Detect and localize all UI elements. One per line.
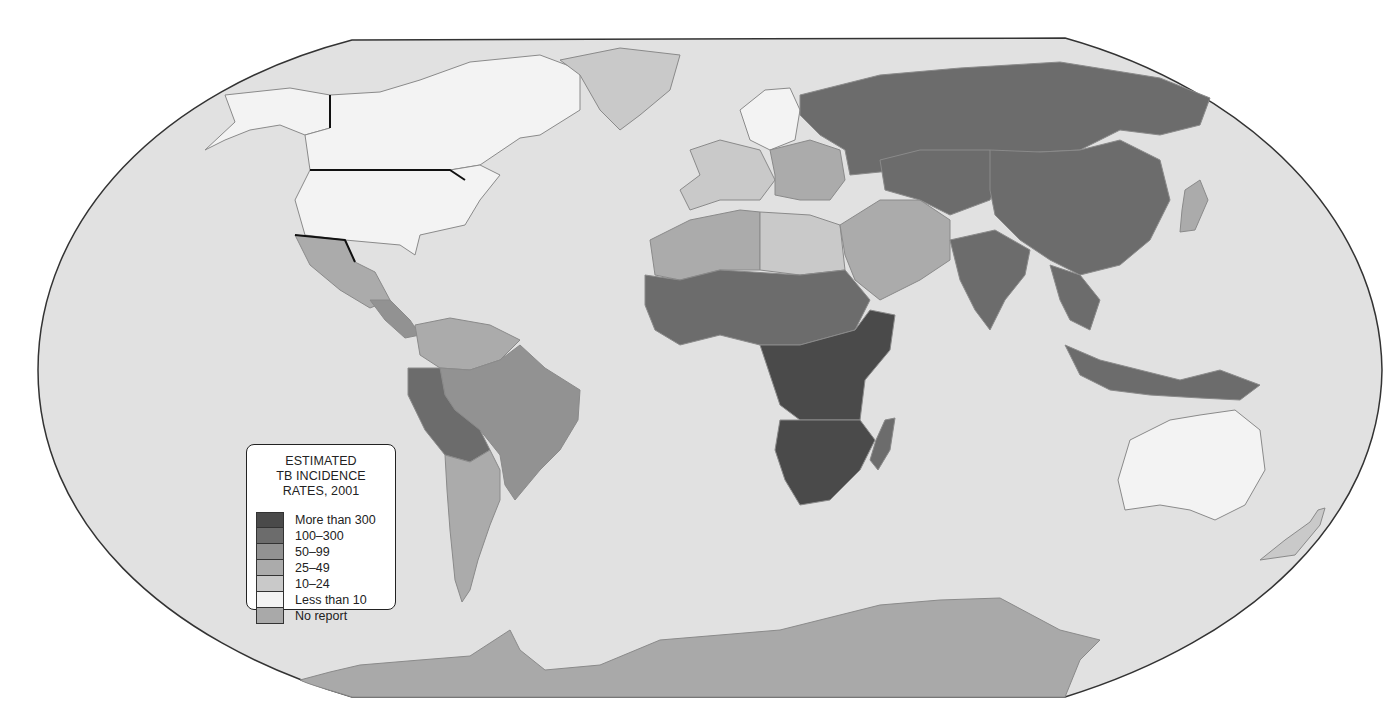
legend-label: Less than 10	[295, 593, 367, 607]
legend-swatch	[256, 528, 284, 544]
legend-item: 10–24	[256, 576, 376, 592]
region-eastern-europe	[770, 140, 845, 200]
legend-item: More than 300	[256, 512, 376, 528]
legend-items: More than 300 100–300 50–99 25–49 10–24 …	[256, 512, 376, 624]
legend-label: 10–24	[295, 577, 330, 591]
legend-item: 100–300	[256, 528, 376, 544]
legend-swatch	[256, 576, 284, 592]
legend-item: 50–99	[256, 544, 376, 560]
legend-title-line: ESTIMATED	[247, 454, 395, 469]
legend-title-line: TB INCIDENCE	[247, 469, 395, 484]
legend-label: 25–49	[295, 561, 330, 575]
legend-item: 25–49	[256, 560, 376, 576]
legend-label: No report	[295, 609, 347, 623]
legend-label: 100–300	[295, 529, 344, 543]
legend-swatch	[256, 560, 284, 576]
ocean-projection-outline	[38, 38, 1382, 697]
legend-title-line: RATES, 2001	[247, 484, 395, 499]
world-map	[0, 0, 1398, 726]
legend-title: ESTIMATED TB INCIDENCE RATES, 2001	[247, 454, 395, 499]
legend-swatch	[256, 544, 284, 560]
legend-swatch	[256, 512, 284, 528]
legend-item: No report	[256, 608, 376, 624]
legend-label: 50–99	[295, 545, 330, 559]
legend-item: Less than 10	[256, 592, 376, 608]
legend-swatch	[256, 592, 284, 608]
region-west-africa	[645, 270, 870, 345]
legend-label: More than 300	[295, 513, 376, 527]
map-legend: ESTIMATED TB INCIDENCE RATES, 2001 More …	[246, 444, 396, 610]
legend-swatch	[256, 608, 284, 624]
